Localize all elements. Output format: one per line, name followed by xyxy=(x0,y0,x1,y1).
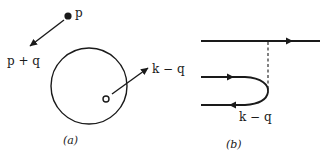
fermi-sphere-circle xyxy=(51,48,127,124)
outgoing-label-p-plus-q: p + q xyxy=(7,54,40,68)
particle-line-arrow-icon xyxy=(286,38,293,45)
excitation-arrow xyxy=(112,68,148,94)
caption-b: (b) xyxy=(226,138,242,151)
diagram-canvas: p p + q k − q (a) k − q (b) xyxy=(0,0,326,155)
panel-b: k − q (b) xyxy=(201,38,320,152)
scattering-arrow xyxy=(30,20,64,46)
bubble-lower-arrow-icon xyxy=(229,102,236,109)
particle-label-p: p xyxy=(75,6,83,20)
particle-filled-dot xyxy=(64,12,71,19)
bubble-upper-arrow-icon xyxy=(227,74,234,81)
caption-a: (a) xyxy=(63,134,78,147)
loop-label-k-minus-q: k − q xyxy=(239,110,272,124)
hole-momentum-label-k-minus-q: k − q xyxy=(152,62,185,76)
panel-a: p p + q k − q (a) xyxy=(7,6,185,147)
hole-open-circle xyxy=(103,96,109,102)
particle-hole-bubble xyxy=(201,77,268,105)
